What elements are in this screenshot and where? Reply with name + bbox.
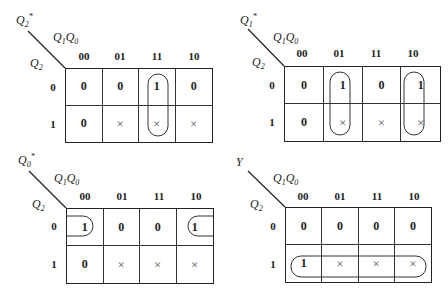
column-header: 10 [182, 50, 206, 62]
column-header: 11 [365, 190, 389, 202]
column-header: 00 [291, 190, 315, 202]
row-header: 1 [47, 258, 61, 270]
cell-dont-care: × [401, 104, 440, 141]
column-header: 01 [110, 190, 134, 202]
column-variable-label: Q1Q0 [54, 171, 79, 187]
cell-dont-care: × [324, 104, 363, 141]
cell: 0 [286, 208, 322, 245]
row-header: 0 [265, 79, 279, 91]
row-variable-label: Q2 [30, 56, 43, 72]
cell: 0 [359, 208, 395, 245]
cell-dont-care: × [363, 104, 402, 141]
row-header: 1 [265, 116, 279, 128]
cell-dont-care: × [104, 246, 141, 283]
kmap-grid: 1 0 0 1 0 × × × [66, 208, 214, 284]
cell: 1 [324, 67, 363, 104]
cell-dont-care: × [176, 106, 213, 143]
cell: 1 [139, 69, 176, 106]
cell: 1 [401, 67, 440, 104]
cell: 0 [285, 67, 324, 104]
row-variable-label: Q2 [32, 197, 45, 213]
column-header: 01 [328, 190, 352, 202]
kmap-grid: 0 0 1 0 0 × × × [65, 68, 213, 143]
row-header: 1 [46, 118, 60, 130]
column-header: 00 [290, 47, 314, 59]
row-variable-label: Q2 [252, 55, 265, 71]
column-variable-label: Q1Q0 [273, 171, 298, 187]
row-header: 0 [46, 81, 60, 93]
cell: 1 [67, 209, 104, 246]
row-header: 1 [266, 258, 280, 270]
column-header: 11 [147, 190, 171, 202]
cell: 1 [286, 245, 322, 282]
cell-dont-care: × [395, 245, 431, 282]
cell-dont-care: × [103, 106, 140, 143]
column-header: 00 [72, 50, 96, 62]
column-variable-label: Q1Q0 [273, 30, 298, 46]
kmap-grid: 0 1 0 1 0 × × × [284, 66, 441, 142]
cell-dont-care: × [140, 246, 177, 283]
column-header: 11 [145, 50, 169, 62]
cell: 0 [66, 69, 103, 106]
cell-dont-care: × [139, 106, 176, 143]
column-header: 01 [108, 50, 132, 62]
output-label: Y [236, 155, 243, 170]
cell: 0 [322, 208, 358, 245]
cell: 0 [140, 209, 177, 246]
row-header: 0 [266, 220, 280, 232]
output-label: Q2* [16, 12, 33, 29]
cell: 1 [177, 209, 214, 246]
column-header: 10 [184, 190, 208, 202]
column-header: 11 [364, 47, 388, 59]
output-label: Q0* [18, 152, 35, 169]
cell: 0 [104, 209, 141, 246]
cell-dont-care: × [322, 245, 358, 282]
output-label: Q1* [240, 12, 257, 29]
cell: 0 [395, 208, 431, 245]
kmap-grid: 0 0 0 0 1 × × × [285, 207, 432, 283]
column-header: 10 [401, 47, 425, 59]
cell-dont-care: × [359, 245, 395, 282]
column-header: 10 [402, 190, 426, 202]
cell: 0 [66, 106, 103, 143]
cell: 0 [176, 69, 213, 106]
cell: 0 [67, 246, 104, 283]
cell: 0 [363, 67, 402, 104]
row-header: 0 [47, 220, 61, 232]
column-header: 00 [73, 190, 97, 202]
column-variable-label: Q1Q0 [53, 30, 78, 46]
row-variable-label: Q2 [250, 197, 263, 213]
cell: 0 [285, 104, 324, 141]
column-header: 01 [327, 47, 351, 59]
cell: 0 [103, 69, 140, 106]
cell-dont-care: × [177, 246, 214, 283]
